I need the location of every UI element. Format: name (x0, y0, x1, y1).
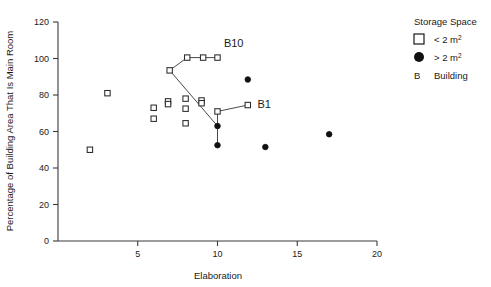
data-point-open-square (200, 55, 205, 60)
data-point-open-square (165, 101, 170, 106)
y-axis-title: Percentage of Building Area That Is Main… (4, 31, 15, 232)
legend-entry-1-label: > 2 m2 (434, 52, 462, 63)
data-point-open-square (167, 68, 172, 73)
y-tick-label-100: 100 (34, 54, 49, 64)
y-tick-group: 020406080100120 (34, 17, 58, 246)
data-point-filled-circle (326, 131, 332, 137)
x-tick-label-5: 5 (135, 249, 140, 259)
annotation-label-B10: B10 (224, 37, 244, 49)
connector-B10-descending-path (170, 70, 218, 145)
x-axis-title: Elaboration (194, 270, 242, 281)
data-point-open-square (215, 55, 220, 60)
data-point-filled-circle (215, 142, 221, 148)
y-tick-label-40: 40 (39, 163, 49, 173)
data-point-filled-circle (263, 144, 269, 150)
data-point-open-square (105, 90, 110, 95)
point-annotation-group: B10B1 (224, 37, 271, 110)
data-point-open-square (183, 106, 188, 111)
connector-group (170, 56, 248, 145)
legend-open-square-icon (414, 34, 424, 44)
y-tick-label-0: 0 (44, 236, 49, 246)
x-tick-group: 5101520 (135, 241, 382, 259)
legend-entry-0-label: < 2 m2 (434, 34, 462, 45)
data-point-open-square (151, 116, 156, 121)
legend-building-letter-icon: B (414, 70, 420, 81)
legend-filled-circle-icon (414, 52, 424, 62)
data-point-filled-circle (215, 123, 221, 129)
axes-group: 020406080100120 5101520 (34, 17, 382, 259)
filled-circle-series (215, 77, 332, 150)
data-point-open-square (183, 121, 188, 126)
connector-B10-path (170, 58, 218, 71)
x-tick-label-15: 15 (292, 249, 302, 259)
legend-group: Storage Space < 2 m2 > 2 m2 B Building (414, 16, 477, 81)
y-tick-label-60: 60 (39, 127, 49, 137)
legend-entry-2-label: Building (434, 70, 468, 81)
connector-B1-path (218, 105, 248, 126)
data-point-open-square (245, 102, 250, 107)
x-tick-label-10: 10 (212, 249, 222, 259)
annotation-label-B1: B1 (257, 98, 270, 110)
data-point-filled-circle (245, 77, 251, 83)
data-point-open-square (184, 55, 189, 60)
data-point-open-square (215, 109, 220, 114)
legend-title: Storage Space (414, 16, 477, 27)
data-point-open-square (87, 147, 92, 152)
plot-canvas: 020406080100120 5101520 B10B1 Elaboratio… (0, 0, 491, 287)
axis-title-group: Elaboration Percentage of Building Area … (4, 31, 242, 281)
open-square-series (87, 55, 250, 153)
data-point-open-square (199, 101, 204, 106)
y-tick-label-120: 120 (34, 17, 49, 27)
scatter-plot-figure: 020406080100120 5101520 B10B1 Elaboratio… (0, 0, 491, 287)
x-tick-label-20: 20 (372, 249, 382, 259)
y-tick-label-80: 80 (39, 90, 49, 100)
y-tick-label-20: 20 (39, 200, 49, 210)
data-point-open-square (183, 96, 188, 101)
data-point-open-square (151, 105, 156, 110)
